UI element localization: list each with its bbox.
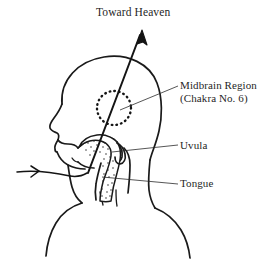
page-title: Toward Heaven [96, 6, 170, 19]
label-midbrain-region: Midbrain Region (Chakra No. 6) [180, 79, 257, 105]
leader-line-midbrain [120, 86, 178, 110]
neck-and-shoulders [46, 160, 190, 258]
midbrain-region-dotted-circle [97, 91, 131, 125]
label-tongue: Tongue [180, 177, 213, 190]
label-midbrain-line1: Midbrain Region [180, 79, 257, 92]
label-uvula: Uvula [180, 139, 207, 152]
diagram-drawing [0, 0, 279, 265]
label-midbrain-line2: (Chakra No. 6) [180, 92, 257, 105]
anatomical-diagram: Toward Heaven Midbrain Region (Chakra No… [0, 0, 279, 265]
